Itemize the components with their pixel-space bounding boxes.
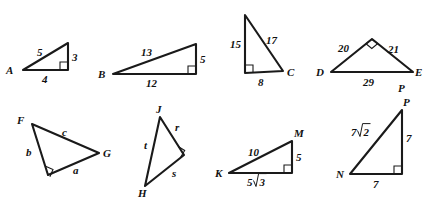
side-label-B-hyp: 13 (141, 46, 153, 58)
triangle-B-right-angle-icon (188, 66, 196, 74)
triangle-KM-right-angle-icon (284, 165, 292, 173)
side-label-A-hyp: 5 (37, 46, 43, 58)
triangle-B: B 13 5 12 (97, 44, 206, 89)
triangle-C: C 15 17 8 (230, 15, 295, 88)
side-label-DE-base: 29 (362, 76, 375, 88)
triangle-NP: N P 7 2 7 7 (335, 96, 412, 190)
side-label-DE-left: 20 (337, 42, 350, 54)
triangle-DE-right-angle-icon (366, 39, 378, 48)
triangle-KM-outline (229, 141, 292, 173)
vertex-label-H: H (137, 187, 147, 199)
side-label-FG-bottom: a (73, 164, 79, 176)
side-label-NP-hyp-group: 7 2 (351, 124, 371, 138)
triangle-A-outline (23, 43, 68, 70)
vertex-label-K: K (214, 167, 223, 179)
vertex-label-G: G (103, 147, 111, 159)
vertex-label-C: C (287, 66, 295, 78)
side-label-A-vert: 3 (71, 51, 78, 63)
side-label-B-vert: 5 (200, 53, 206, 65)
vertex-label-F: F (16, 114, 25, 126)
vertex-label-M: M (293, 127, 305, 139)
vertex-label-P-top: P (398, 82, 405, 94)
side-label-JH-s: s (171, 167, 176, 179)
vertex-label-J: J (155, 103, 162, 115)
side-label-KM-base-coefficient: 5 (247, 176, 253, 188)
side-label-JH-t: t (144, 139, 148, 151)
triangle-NP-right-angle-icon (394, 166, 402, 174)
side-label-NP-hyp-coefficient: 7 (351, 126, 357, 138)
triangle-A: A 5 3 4 (5, 43, 78, 85)
triangle-NP-outline (350, 110, 402, 174)
vertex-label-E: E (414, 66, 422, 78)
side-label-KM-hyp: 10 (248, 146, 260, 158)
side-label-NP-vert: 7 (406, 132, 412, 144)
triangle-C-outline (245, 15, 283, 73)
side-label-DE-right: 21 (387, 43, 399, 55)
side-label-KM-base-radicand: 3 (259, 176, 266, 188)
triangle-B-outline (113, 44, 196, 74)
side-label-C-hyp: 17 (266, 34, 278, 46)
side-label-FG-top: c (62, 126, 67, 138)
geometry-figure-sheet: A 5 3 4 B 13 5 12 C 15 17 8 D E (0, 0, 428, 202)
vertex-label-N: N (335, 168, 345, 180)
side-label-KM-vert: 5 (296, 151, 302, 163)
side-label-KM-base-group: 5 3 (247, 174, 267, 188)
side-label-FG-left: b (26, 146, 32, 158)
side-label-C-base: 8 (258, 76, 264, 88)
side-label-C-vert: 15 (230, 38, 242, 50)
triangle-A-right-angle-icon (60, 62, 68, 70)
side-label-NP-base: 7 (373, 178, 379, 190)
vertex-label-D: D (315, 66, 324, 78)
triangle-FG: F G c b a (16, 114, 111, 177)
vertex-label-A: A (5, 64, 13, 76)
triangle-KM: K M 10 5 5 3 (214, 127, 305, 188)
vertex-label-B: B (97, 68, 105, 80)
side-label-B-base: 12 (146, 77, 158, 89)
triangles-canvas: A 5 3 4 B 13 5 12 C 15 17 8 D E (0, 0, 428, 202)
side-label-A-base: 4 (41, 73, 48, 85)
vertex-label-P: P (403, 96, 410, 108)
side-label-NP-hyp-radicand: 2 (363, 126, 370, 138)
triangle-DE: D E P 20 21 29 (315, 39, 422, 94)
triangle-JH: J H r t s (137, 103, 185, 199)
side-label-JH-r: r (175, 121, 180, 133)
